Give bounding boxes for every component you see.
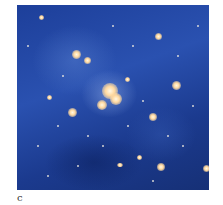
galaxy-cluster-image: [17, 5, 209, 190]
panel-label: c: [17, 192, 23, 203]
